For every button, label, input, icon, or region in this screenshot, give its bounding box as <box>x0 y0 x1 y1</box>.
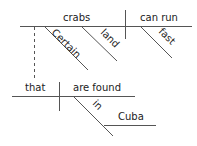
word-are-found: are found <box>73 82 121 93</box>
word-subject: crabs <box>63 12 90 23</box>
word-certain: Certain <box>50 27 84 61</box>
word-verb: can run <box>140 12 178 23</box>
word-fast: fast <box>157 26 178 47</box>
word-cuba: Cuba <box>118 111 144 122</box>
word-that: that <box>25 82 45 93</box>
word-in: in <box>91 98 105 112</box>
sentence-diagram: crabs can run Certain land fast that are… <box>0 0 197 146</box>
